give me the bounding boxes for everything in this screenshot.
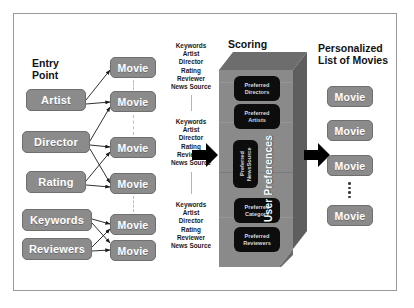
attribute-item: Keywords [160, 42, 222, 50]
entry-node-label: Keywords [30, 214, 84, 226]
entry-node-keywords[interactable]: Keywords [22, 209, 92, 231]
preference-label: Preferred Reviewers [243, 233, 271, 247]
result-movie-label: Movie [335, 210, 366, 222]
group-separator [133, 196, 134, 212]
attribute-item: News Source [160, 83, 222, 91]
entry-point-header: Entry Point [32, 57, 92, 81]
preference-label: Preferred Directors [245, 82, 270, 96]
personalized-list-header: Personalized List of Movies [318, 42, 398, 66]
user-preferences-label: User Preferences [263, 134, 289, 222]
movie-node-label: Movie [118, 245, 149, 257]
result-movie-node[interactable]: Movie [327, 86, 373, 107]
arrow-to-scoring-icon [192, 143, 218, 167]
attribute-item: Artist [160, 50, 222, 58]
result-movie-label: Movie [335, 160, 366, 172]
movie-node-label: Movie [118, 219, 149, 231]
entry-node-label: Director [34, 136, 78, 148]
attribute-list: Keywords Artist Director Rating Reviewer… [160, 42, 222, 91]
result-movie-node[interactable]: Movie [327, 155, 373, 176]
group-separator [133, 115, 134, 135]
attribute-item: Keywords [160, 118, 222, 126]
group-separator [133, 80, 134, 90]
attribute-item: Reviewer [160, 234, 222, 242]
attribute-item: Artist [160, 209, 222, 217]
attribute-item: News Source [160, 242, 222, 250]
attribute-list-separator [191, 172, 192, 194]
result-movie-label: Movie [335, 91, 366, 103]
preference-box-reviewers[interactable]: Preferred Reviewers [234, 227, 280, 252]
attribute-item: Reviewer [160, 75, 222, 83]
entry-node-director[interactable]: Director [22, 131, 90, 153]
result-list-ellipsis-icon [348, 182, 351, 198]
movie-node[interactable]: Movie [110, 137, 156, 158]
result-movie-node[interactable]: Movie [327, 205, 373, 226]
entry-node-label: Rating [38, 176, 73, 188]
entry-node-rating[interactable]: Rating [26, 171, 86, 193]
attribute-item: Director [160, 58, 222, 66]
diagram-canvas: Entry Point Scoring Personalized List of… [0, 0, 414, 308]
entry-node-label: Reviewers [29, 243, 85, 255]
result-movie-node[interactable]: Movie [327, 120, 373, 141]
movie-node[interactable]: Movie [110, 91, 156, 112]
movie-node[interactable]: Movie [110, 240, 156, 261]
attribute-item: Director [160, 217, 222, 225]
entry-node-label: Artist [41, 94, 71, 106]
movie-node[interactable]: Movie [110, 57, 156, 78]
attribute-item: Rating [160, 226, 222, 234]
preference-box-newssource[interactable]: Preferred NewsSource [233, 140, 258, 188]
attribute-list-separator [191, 95, 192, 111]
entry-node-artist[interactable]: Artist [26, 89, 86, 111]
movie-node[interactable]: Movie [110, 214, 156, 235]
attribute-item: Keywords [160, 201, 222, 209]
result-movie-label: Movie [335, 125, 366, 137]
preference-label: Preferred Artists [245, 110, 270, 124]
attribute-item: Rating [160, 67, 222, 75]
attribute-item: Artist [160, 126, 222, 134]
entry-node-reviewers[interactable]: Reviewers [22, 238, 92, 260]
preference-box-directors[interactable]: Preferred Directors [234, 76, 280, 101]
preference-label: Preferred NewsSource [239, 147, 253, 181]
movie-node[interactable]: Movie [110, 173, 156, 194]
scoring-header: Scoring [228, 38, 298, 50]
movie-node-label: Movie [118, 142, 149, 154]
movie-node-label: Movie [118, 96, 149, 108]
movie-node-label: Movie [118, 178, 149, 190]
preference-box-artists[interactable]: Preferred Artists [234, 104, 280, 129]
attribute-item: Director [160, 134, 222, 142]
attribute-list: Keywords Artist Director Rating Reviewer… [160, 201, 222, 250]
movie-node-label: Movie [118, 62, 149, 74]
